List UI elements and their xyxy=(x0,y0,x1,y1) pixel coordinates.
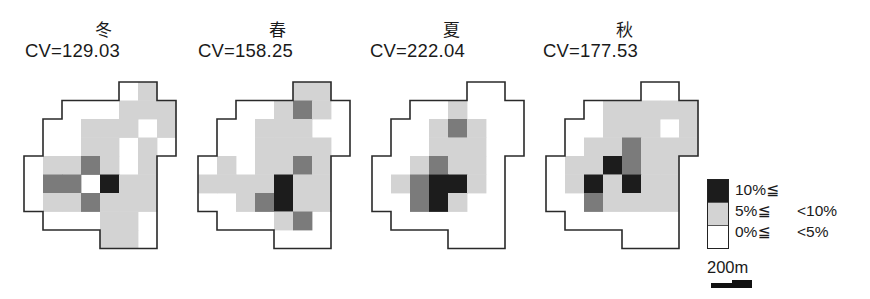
map-panel-1 xyxy=(24,82,176,249)
grid-cell xyxy=(603,175,622,194)
grid-cell xyxy=(138,138,157,157)
grid-cell xyxy=(236,193,255,212)
grid-cell xyxy=(274,119,293,138)
grid-cell xyxy=(81,193,100,212)
grid-cell xyxy=(255,119,274,138)
grid-cell xyxy=(565,175,584,194)
scale-bar-thick-segment xyxy=(732,280,752,288)
grid-cell xyxy=(312,138,331,157)
grid-cell xyxy=(660,138,679,157)
grid-cell xyxy=(467,156,486,175)
grid-cell xyxy=(410,175,429,194)
grid-cell xyxy=(312,193,331,212)
grid-cell xyxy=(293,119,312,138)
grid-cell xyxy=(391,175,410,194)
grid-cell xyxy=(119,175,138,194)
grid-cell xyxy=(255,156,274,175)
grid-cell xyxy=(43,156,62,175)
grid-cell xyxy=(603,193,622,212)
grid-cell xyxy=(603,119,622,138)
grid-cell xyxy=(584,156,603,175)
grid-cell xyxy=(679,101,698,120)
grid-cell xyxy=(81,138,100,157)
grid-cell xyxy=(293,156,312,175)
grid-cell xyxy=(312,101,331,120)
legend-low-low-bound: 0%≦ xyxy=(735,223,797,241)
grid-cell xyxy=(429,138,448,157)
grid-cell xyxy=(584,138,603,157)
legend-row-low: 0%≦<5% xyxy=(735,223,828,241)
grid-cell xyxy=(100,212,119,231)
grid-cell xyxy=(100,156,119,175)
grid-cell xyxy=(100,138,119,157)
grid-cell xyxy=(312,156,331,175)
grid-cell xyxy=(274,193,293,212)
grid-cell xyxy=(622,175,641,194)
grid-cell xyxy=(293,138,312,157)
grid-cell xyxy=(410,193,429,212)
grid-cell xyxy=(274,101,293,120)
grid-cell xyxy=(81,119,100,138)
legend-high-low-bound: 10%≦ xyxy=(735,181,797,199)
grid-cell xyxy=(622,193,641,212)
grid-cell xyxy=(274,138,293,157)
map-panel-3 xyxy=(372,82,524,249)
grid-cell xyxy=(293,212,312,231)
grid-cell xyxy=(429,193,448,212)
legend-mid-low-bound: 5%≦ xyxy=(735,202,797,220)
grid-cell xyxy=(62,175,81,194)
grid-cell xyxy=(641,101,660,120)
grid-cell xyxy=(660,156,679,175)
grid-cell xyxy=(467,138,486,157)
grid-cell xyxy=(448,156,467,175)
grid-cell xyxy=(467,175,486,194)
legend-mid-high-bound: <10% xyxy=(797,202,837,219)
grid-cell xyxy=(157,101,176,120)
grid-cell xyxy=(119,193,138,212)
grid-cell xyxy=(584,175,603,194)
grid-cell xyxy=(138,156,157,175)
grid-cell xyxy=(679,138,698,157)
grid-cell xyxy=(622,119,641,138)
grid-cell xyxy=(467,119,486,138)
grid-cell xyxy=(138,82,157,101)
grid-cell xyxy=(660,101,679,120)
grid-cell xyxy=(293,175,312,194)
grid-cell xyxy=(293,82,312,101)
grid-cell xyxy=(119,212,138,231)
grid-cell xyxy=(641,175,660,194)
grid-cell xyxy=(255,138,274,157)
grid-cell xyxy=(43,175,62,194)
grid-cell xyxy=(255,193,274,212)
grid-cell xyxy=(217,175,236,194)
grid-cell xyxy=(62,193,81,212)
grid-cell xyxy=(603,156,622,175)
grid-cell xyxy=(119,230,138,249)
grid-cell xyxy=(429,156,448,175)
grid-cell xyxy=(641,156,660,175)
grid-cell xyxy=(274,212,293,231)
grid-cell xyxy=(312,82,331,101)
grid-cell xyxy=(100,230,119,249)
grid-cell xyxy=(679,119,698,138)
scale-bar-label: 200m xyxy=(707,258,748,277)
grid-cell xyxy=(603,138,622,157)
grid-cell xyxy=(448,193,467,212)
grid-cell xyxy=(448,119,467,138)
grid-cell xyxy=(312,175,331,194)
legend-swatch-mid xyxy=(708,203,728,226)
grid-cell xyxy=(119,119,138,138)
grid-cell xyxy=(138,175,157,194)
scale-bar-thin-segment xyxy=(711,283,733,288)
grid-cell xyxy=(198,175,217,194)
grid-cell xyxy=(641,138,660,157)
legend-row-high: 10%≦ xyxy=(735,181,797,199)
grid-cell xyxy=(622,101,641,120)
grid-cell xyxy=(293,101,312,120)
grid-cell xyxy=(100,119,119,138)
grid-cell xyxy=(100,193,119,212)
grid-cell xyxy=(157,119,176,138)
grid-cell xyxy=(660,193,679,212)
grid-cell xyxy=(119,101,138,120)
grid-cell xyxy=(293,193,312,212)
